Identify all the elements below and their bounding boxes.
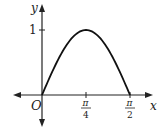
x-axis-left-arrow: [13, 92, 21, 98]
y-tick-label-1: 1: [29, 23, 37, 37]
chart: y 1 O x π 4 π 2: [0, 0, 163, 133]
y-axis-label: y: [30, 1, 38, 15]
x-axis-label: x: [150, 99, 157, 113]
svg-text:π: π: [82, 98, 90, 108]
sine-curve: [42, 30, 130, 95]
y-axis-up-arrow: [39, 4, 45, 12]
y-axis-down-arrow: [39, 119, 45, 127]
origin-label: O: [31, 98, 42, 113]
x-axis-right-arrow: [145, 92, 153, 98]
x-tick-label-pi-2: π 2: [125, 98, 135, 120]
svg-text:2: 2: [127, 110, 133, 120]
x-tick-label-pi-4: π 4: [81, 98, 91, 120]
svg-text:π: π: [126, 98, 134, 108]
svg-text:4: 4: [83, 110, 89, 120]
